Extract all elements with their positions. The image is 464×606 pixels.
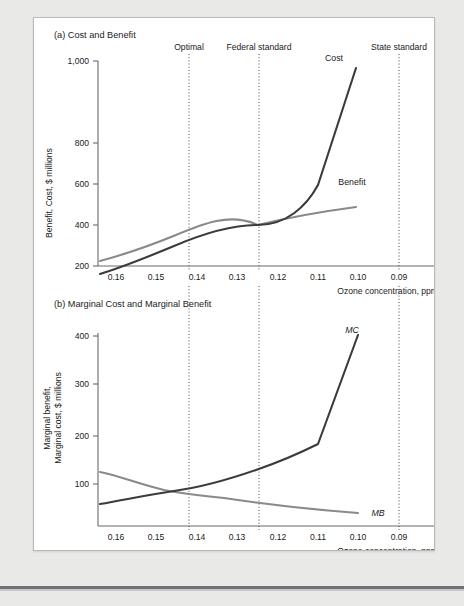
panel-b-x-tick-label-2: 0.14 <box>189 532 206 542</box>
panel-a-y-axis-label: Benefit, Cost, $ millions <box>44 148 54 238</box>
panel-b-x-tick-label-4: 0.12 <box>270 532 287 542</box>
panel-b-y-tick-label-300: 300 <box>75 379 90 389</box>
panel-b: (b) Marginal Cost and Marginal Benefit M… <box>42 286 434 550</box>
panel-b-x-ticks: 0.16 0.15 0.14 0.13 0.12 0.11 0.10 0.09 <box>108 532 408 542</box>
panel-a-state-standard-label: State standard <box>371 42 427 52</box>
panel-b-x-tick-label-3: 0.13 <box>229 532 246 542</box>
panel-a-y-tick-label-1000: 1,000 <box>67 56 89 66</box>
panel-b-x-tick-label-1: 0.15 <box>148 532 165 542</box>
panel-b-x-tick-label-7: 0.09 <box>391 532 408 542</box>
panel-a-optimal-label: Optimal <box>174 42 204 52</box>
panel-b-y-axis-label-line1: Marginal benefit, <box>42 386 52 450</box>
panel-b-mc-label: MC <box>345 325 359 335</box>
panel-b-x-tick-label-6: 0.10 <box>350 532 367 542</box>
panel-a-benefit-label: Benefit <box>338 177 366 187</box>
figure-svg: (a) Cost and Benefit Benefit, Cost, $ mi… <box>34 18 434 550</box>
panel-a: (a) Cost and Benefit Benefit, Cost, $ mi… <box>44 30 434 296</box>
panel-a-x-axis-label: Ozone concentration, ppm <box>337 286 434 296</box>
panel-b-title: (b) Marginal Cost and Marginal Benefit <box>54 299 212 309</box>
panel-b-y-axis-label-line2: Marginal cost, $ millions <box>53 372 63 464</box>
panel-a-x-ticks: 0.16 0.15 0.14 0.13 0.12 0.11 0.10 0.09 <box>108 272 408 282</box>
panel-a-x-tick-label-6: 0.10 <box>350 272 367 282</box>
panel-a-x-tick-label-1: 0.15 <box>148 272 165 282</box>
panel-b-x-axis-label: Ozone concentration, ppm <box>337 546 434 550</box>
panel-a-y-tick-label-400: 400 <box>75 220 90 230</box>
panel-a-x-tick-label-3: 0.13 <box>229 272 246 282</box>
panel-b-mc-curve <box>100 335 358 504</box>
panel-a-federal-standard-label: Federal standard <box>227 42 292 52</box>
panel-a-x-tick-label-4: 0.12 <box>270 272 287 282</box>
page-background: (a) Cost and Benefit Benefit, Cost, $ mi… <box>0 0 464 606</box>
panel-a-y-tick-label-200: 200 <box>75 261 90 271</box>
panel-a-x-tick-label-0: 0.16 <box>108 272 125 282</box>
panel-b-y-tick-label-400: 400 <box>75 331 90 341</box>
panel-a-benefit-curve <box>100 207 356 261</box>
panel-b-x-tick-label-5: 0.11 <box>310 532 326 542</box>
panel-a-x-tick-label-7: 0.09 <box>391 272 408 282</box>
figure-card: (a) Cost and Benefit Benefit, Cost, $ mi… <box>33 17 435 551</box>
panel-a-cost-label: Cost <box>325 53 344 63</box>
panel-a-y-tick-label-800: 800 <box>75 138 90 148</box>
figure-svg-container: (a) Cost and Benefit Benefit, Cost, $ mi… <box>34 18 434 550</box>
panel-a-cost-curve <box>100 68 356 274</box>
panel-b-mb-label: MB <box>371 508 384 518</box>
panel-a-title: (a) Cost and Benefit <box>54 30 136 40</box>
panel-a-x-tick-label-2: 0.14 <box>189 272 206 282</box>
panel-a-y-ticks: 200 400 600 800 1,000 <box>67 56 98 271</box>
panel-b-y-ticks: 100 200 300 400 <box>75 331 98 489</box>
panel-a-y-tick-label-600: 600 <box>75 179 90 189</box>
panel-a-x-tick-label-5: 0.11 <box>310 272 326 282</box>
panel-b-y-tick-label-200: 200 <box>75 431 90 441</box>
panel-b-x-tick-label-0: 0.16 <box>108 532 125 542</box>
panel-b-y-tick-label-100: 100 <box>75 479 90 489</box>
page-bottom-rule <box>0 586 464 589</box>
